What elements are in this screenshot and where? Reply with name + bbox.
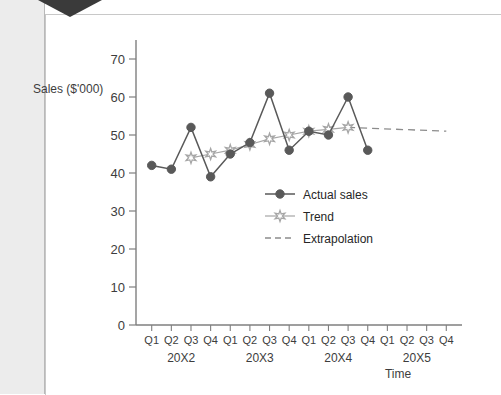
data-point-marker xyxy=(265,89,273,97)
legend-entry: Extrapolation xyxy=(265,232,373,246)
data-point-marker xyxy=(187,123,195,131)
data-point-marker xyxy=(206,173,214,181)
y-tick-label: 70 xyxy=(111,52,125,67)
legend-entry: Trend xyxy=(265,210,334,224)
x-tick-label: Q3 xyxy=(341,334,356,346)
x-axis-year-label: 20X2 xyxy=(167,351,195,365)
y-tick-label: 10 xyxy=(111,280,125,295)
x-tick-label: Q4 xyxy=(282,334,297,346)
series-line xyxy=(348,127,446,131)
x-tick-label: Q1 xyxy=(380,334,395,346)
data-point-marker xyxy=(344,93,352,101)
data-point-marker xyxy=(167,165,175,173)
star-icon xyxy=(186,152,196,163)
legend-label: Actual sales xyxy=(303,188,368,202)
data-point-marker xyxy=(186,152,196,163)
chart-legend: Actual salesTrendExtrapolation xyxy=(265,188,373,246)
x-axis-year-label: 20X5 xyxy=(403,351,431,365)
data-point-marker xyxy=(364,146,372,154)
x-tick-label: Q2 xyxy=(164,334,179,346)
x-tick-label: Q3 xyxy=(262,334,277,346)
series-actual-sales xyxy=(148,89,372,181)
x-axis-tick-labels: Q1Q2Q3Q4Q1Q2Q3Q4Q1Q2Q3Q4Q1Q2Q3Q4 xyxy=(144,334,453,346)
y-tick-label: 20 xyxy=(111,242,125,257)
data-point-marker xyxy=(226,150,234,158)
x-tick-label: Q1 xyxy=(144,334,159,346)
data-point-marker xyxy=(265,133,275,144)
star-icon xyxy=(265,133,275,144)
data-point-marker xyxy=(246,138,254,146)
series-trend xyxy=(186,122,353,164)
x-axis-ticks xyxy=(152,325,447,331)
y-tick-label: 30 xyxy=(111,204,125,219)
x-tick-label: Q3 xyxy=(184,334,199,346)
x-axis-year-labels: 20X220X320X420X5 xyxy=(167,351,431,365)
legend-entry: Actual sales xyxy=(265,188,368,202)
series-extrapolation xyxy=(348,127,446,131)
series-line xyxy=(152,93,368,177)
y-tick-label: 0 xyxy=(118,318,125,333)
data-point-marker xyxy=(206,148,216,159)
x-axis-year-label: 20X4 xyxy=(324,351,352,365)
x-tick-label: Q2 xyxy=(321,334,336,346)
y-axis-tick-labels: 010203040506070 xyxy=(111,52,125,333)
star-icon xyxy=(206,148,216,159)
x-tick-label: Q2 xyxy=(400,334,415,346)
x-tick-label: Q4 xyxy=(203,334,218,346)
x-tick-label: Q2 xyxy=(243,334,258,346)
y-tick-label: 40 xyxy=(111,166,125,181)
x-tick-label: Q4 xyxy=(360,334,375,346)
x-tick-label: Q3 xyxy=(419,334,434,346)
chart-axes xyxy=(129,40,462,331)
x-tick-label: Q1 xyxy=(301,334,316,346)
x-tick-label: Q1 xyxy=(223,334,238,346)
legend-label: Extrapolation xyxy=(303,232,373,246)
y-tick-label: 60 xyxy=(111,90,125,105)
x-tick-label: Q4 xyxy=(439,334,454,346)
x-axis-title: Time xyxy=(385,367,412,381)
data-point-marker xyxy=(285,146,293,154)
data-point-marker xyxy=(305,127,313,135)
legend-label: Trend xyxy=(303,210,334,224)
y-axis-ticks xyxy=(129,59,136,325)
y-tick-label: 50 xyxy=(111,128,125,143)
x-axis-year-label: 20X3 xyxy=(246,351,274,365)
data-point-marker xyxy=(276,190,284,198)
y-axis-title: Sales ($'000) xyxy=(33,82,103,96)
data-point-marker xyxy=(324,131,332,139)
data-point-marker xyxy=(148,161,156,169)
